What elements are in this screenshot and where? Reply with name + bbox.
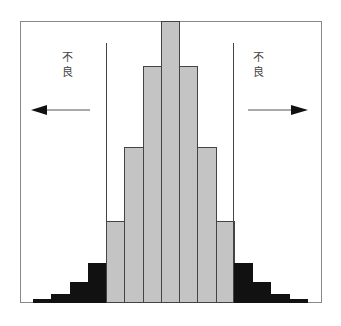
histogram-bar <box>88 263 107 303</box>
histogram-bar <box>143 66 162 303</box>
arrow-left-icon <box>30 104 92 116</box>
histogram-bar <box>70 282 89 303</box>
histogram-bar <box>252 282 271 303</box>
histogram-bar <box>51 294 71 303</box>
histogram-bar <box>179 66 198 303</box>
left-defect-char-2: 良 <box>60 65 74 80</box>
left-defect-label: 不 良 <box>60 50 74 80</box>
histogram-bar <box>33 299 52 303</box>
histogram-bar <box>270 294 290 303</box>
right-defect-char-2: 良 <box>251 65 265 80</box>
histogram-bar <box>234 263 253 303</box>
histogram-bar <box>197 147 217 303</box>
arrow-right-icon <box>247 104 309 116</box>
histogram-bar <box>124 147 144 303</box>
right-defect-char-1: 不 <box>251 50 265 65</box>
left-defect-char-1: 不 <box>60 50 74 65</box>
lower-spec-limit-line <box>106 43 107 303</box>
histogram-bar <box>289 299 308 303</box>
upper-spec-limit-line <box>233 43 234 303</box>
histogram-bar <box>161 21 180 303</box>
histogram-bar <box>106 221 125 303</box>
right-defect-label: 不 良 <box>251 50 265 80</box>
